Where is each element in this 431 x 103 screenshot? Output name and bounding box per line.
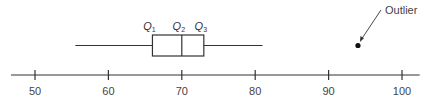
quartile-labels: Q1Q2Q3	[143, 20, 207, 33]
outlier-point	[355, 43, 360, 48]
quartile-label: Q3	[195, 20, 208, 33]
tick-label: 50	[29, 85, 41, 97]
box-plot-chart: 5060708090100 Q1Q2Q3 Outlier	[0, 0, 431, 103]
quartile-label: Q1	[143, 20, 156, 33]
x-axis: 5060708090100	[11, 70, 420, 97]
tick-label: 70	[176, 85, 188, 97]
box-plot	[75, 35, 360, 56]
outlier-annotation: Outlier	[360, 4, 418, 42]
tick-label: 90	[322, 85, 334, 97]
iqr-box	[152, 35, 203, 56]
tick-label: 80	[249, 85, 261, 97]
tick-label: 60	[102, 85, 114, 97]
tick-label: 100	[393, 85, 411, 97]
quartile-label: Q2	[173, 20, 186, 33]
annotation-arrow	[361, 10, 381, 40]
annotation-label: Outlier	[385, 4, 418, 16]
